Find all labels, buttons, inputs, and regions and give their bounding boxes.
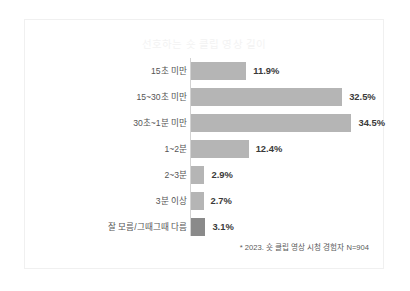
bar-track: 11.9% — [191, 58, 385, 84]
bar-row: 15~30초 미만32.5% — [25, 84, 385, 110]
bar-track: 2.7% — [191, 188, 385, 214]
bar-fill — [191, 166, 204, 184]
bar-fill — [191, 88, 342, 106]
bar-category-label: 30초~1분 미만 — [133, 110, 187, 136]
bar-row: 1~2분12.4% — [25, 136, 385, 162]
bar-row: 30초~1분 미만34.5% — [25, 110, 385, 136]
bar-category-label: 15~30초 미만 — [136, 84, 187, 110]
bar-category-label: 1~2분 — [164, 136, 187, 162]
bar-value-label: 12.4% — [256, 136, 283, 162]
bar-category-label: 2~3분 — [164, 162, 187, 188]
bar-value-label: 3.1% — [212, 214, 233, 240]
bar-value-label: 2.9% — [211, 162, 232, 188]
bar-fill — [191, 114, 351, 132]
bar-fill — [191, 192, 204, 210]
bar-category-label: 잘 모름/그때그때 다름 — [108, 214, 187, 240]
bar-track: 32.5% — [191, 84, 385, 110]
bar-track: 3.1% — [191, 214, 385, 240]
bar-row: 3분 이상2.7% — [25, 188, 385, 214]
bar-track: 34.5% — [191, 110, 385, 136]
bar-row: 15초 미만11.9% — [25, 58, 385, 84]
bar-value-label: 34.5% — [358, 110, 385, 136]
screenshot-root: 선호하는 숏 클립 영상 길이 15초 미만11.9%15~30초 미만32.5… — [0, 0, 410, 291]
bar-value-label: 2.7% — [211, 188, 232, 214]
bar-fill — [191, 62, 246, 80]
bar-track: 12.4% — [191, 136, 385, 162]
bar-fill — [191, 218, 205, 236]
bar-row: 잘 모름/그때그때 다름3.1% — [25, 214, 385, 240]
bar-value-label: 32.5% — [349, 84, 376, 110]
chart-footnote: * 2023. 숏 클립 영상 시청 경험자 N=904 — [240, 241, 369, 252]
chart-card: 선호하는 숏 클립 영상 길이 15초 미만11.9%15~30초 미만32.5… — [24, 19, 384, 269]
bar-chart-plot-area: 15초 미만11.9%15~30초 미만32.5%30초~1분 미만34.5%1… — [25, 58, 385, 238]
bar-value-label: 11.9% — [253, 58, 279, 84]
bar-category-label: 15초 미만 — [151, 58, 187, 84]
bar-category-label: 3분 이상 — [156, 188, 187, 214]
bar-fill — [191, 140, 249, 158]
bar-row: 2~3분2.9% — [25, 162, 385, 188]
chart-title: 선호하는 숏 클립 영상 길이 — [25, 36, 383, 51]
bar-track: 2.9% — [191, 162, 385, 188]
